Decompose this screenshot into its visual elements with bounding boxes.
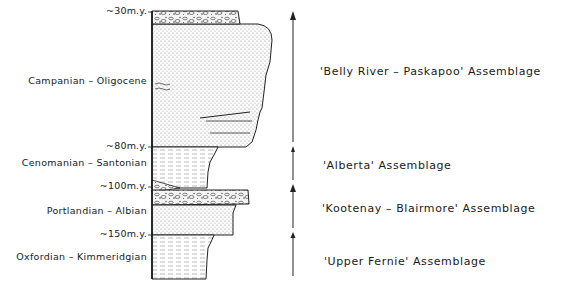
assemblage-kootenay-blairmore: 'Kootenay – Blairmore' Assemblage: [322, 202, 536, 215]
shale-alberta-unit: [152, 147, 218, 188]
age-marker-80: ~80m.y.: [106, 140, 147, 151]
stratigraphic-figure: ~30m.y. ~80m.y. ~100m.y. ~150m.y. Campan…: [0, 0, 568, 288]
stage-label-oxfordian-kimmeridgian: Oxfordian – Kimmeridgian: [16, 251, 147, 262]
age-marker-30: ~30m.y.: [106, 5, 147, 16]
shale-fernie-unit: [152, 235, 214, 279]
assemblage-arrows: [290, 11, 296, 276]
age-marker-100: ~100m.y.: [100, 180, 147, 191]
stratigraphic-column-graphic: [0, 0, 568, 288]
assemblage-belly-river-paskapoo: 'Belly River – Paskapoo' Assemblage: [320, 65, 541, 78]
stage-label-cenomanian-santonian: Cenomanian – Santonian: [22, 157, 147, 168]
stage-label-portlandian-albian: Portlandian – Albian: [47, 205, 147, 216]
stage-label-campanian-oligocene: Campanian – Oligocene: [28, 75, 147, 86]
age-marker-150: ~150m.y.: [100, 228, 147, 239]
sandstone-kootenay-unit: [152, 205, 236, 235]
conglomerate-top-unit: [152, 11, 240, 24]
assemblage-upper-fernie: 'Upper Fernie' Assemblage: [324, 255, 486, 268]
conglomerate-kootenay-unit: [152, 190, 249, 205]
sandstone-upper-unit: [152, 24, 272, 147]
assemblage-alberta: 'Alberta' Assemblage: [323, 159, 451, 172]
